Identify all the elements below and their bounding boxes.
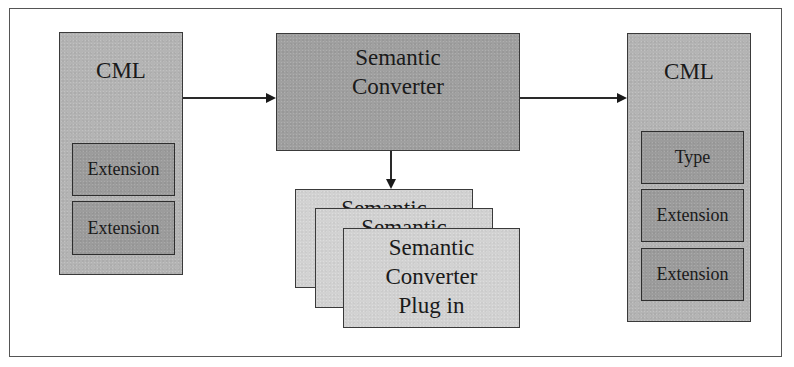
plugin-3-line3: Plug in: [386, 291, 478, 320]
semantic-converter-plugin-3: Semantic Converter Plug in: [343, 228, 520, 328]
source-cml-box: CML Extension Extension: [59, 32, 183, 275]
source-extension-label-2: Extension: [88, 218, 160, 239]
target-extension-box-2: Extension: [641, 248, 744, 301]
target-type-label: Type: [675, 147, 711, 168]
arrow-source-to-converter: [183, 97, 267, 99]
plugin-3-line1: Semantic: [386, 233, 478, 262]
source-extension-box-1: Extension: [72, 143, 175, 196]
arrow-converter-to-plugins: [390, 151, 392, 180]
arrow-converter-to-target: [520, 97, 618, 99]
source-cml-title: CML: [60, 59, 182, 82]
source-extension-label-1: Extension: [88, 159, 160, 180]
arrowhead-down-icon: [386, 179, 396, 189]
arrowhead-right-icon: [266, 93, 276, 103]
converter-label-line1: Semantic: [352, 43, 444, 72]
target-extension-label-2: Extension: [657, 264, 729, 285]
target-cml-title: CML: [628, 60, 750, 83]
target-extension-box-1: Extension: [641, 189, 744, 242]
target-cml-box: CML Type Extension Extension: [627, 33, 751, 322]
converter-label-line2: Converter: [352, 72, 444, 101]
source-extension-box-2: Extension: [72, 201, 175, 255]
arrowhead-right-icon: [617, 93, 627, 103]
semantic-converter-box: Semantic Converter: [276, 33, 520, 151]
target-type-box: Type: [641, 131, 744, 184]
target-extension-label-1: Extension: [657, 205, 729, 226]
plugin-3-line2: Converter: [386, 262, 478, 291]
